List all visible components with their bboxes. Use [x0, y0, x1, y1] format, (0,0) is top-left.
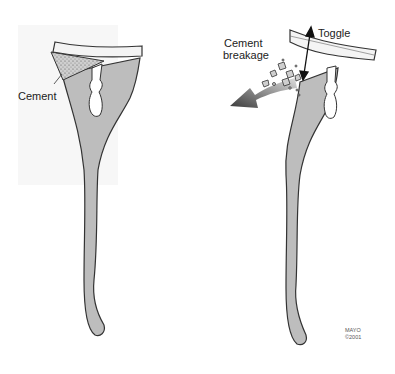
cement-label: Cement — [18, 90, 57, 102]
cement-breakage-label-line1: Cement — [224, 37, 263, 49]
credit-line2: ©2001 — [345, 334, 361, 340]
cement-breakage-label-line2: breakage — [223, 49, 269, 61]
credit-line1: MAYO — [345, 327, 362, 333]
diagram-canvas: Cement Togg — [0, 0, 395, 374]
toggle-label: Toggle — [318, 27, 350, 39]
left-tibia-implant: Cement — [18, 25, 142, 336]
right-tibia-implant: Toggle Cement breakage MAYO ©2001 — [223, 27, 376, 345]
